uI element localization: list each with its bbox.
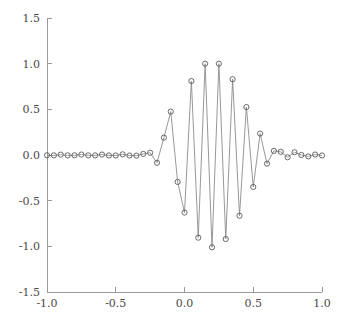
y-tick-labels: -1.5-1.0-0.50.00.51.01.5 (19, 12, 40, 299)
x-tick-label: 1.0 (313, 297, 331, 310)
figure-container: -1.5-1.0-0.50.00.51.01.5 -1.0-0.50.00.51… (0, 0, 345, 330)
y-tick-label: 0.0 (23, 149, 41, 162)
x-tick-label: -1.0 (36, 297, 57, 310)
y-tick-label: 0.5 (23, 103, 41, 116)
x-tick-marks (47, 287, 322, 292)
y-tick-label: 1.0 (23, 58, 41, 71)
y-tick-label: 1.5 (23, 12, 41, 25)
y-tick-label: -1.0 (19, 240, 40, 253)
x-tick-labels: -1.0-0.50.00.51.0 (36, 297, 330, 310)
y-tick-label: -0.5 (19, 195, 40, 208)
x-tick-label: -0.5 (105, 297, 126, 310)
data-series-line (47, 64, 322, 248)
x-tick-label: 0.0 (176, 297, 194, 310)
wavelet-chart: -1.5-1.0-0.50.00.51.01.5 -1.0-0.50.00.51… (0, 0, 345, 330)
x-tick-label: 0.5 (245, 297, 263, 310)
